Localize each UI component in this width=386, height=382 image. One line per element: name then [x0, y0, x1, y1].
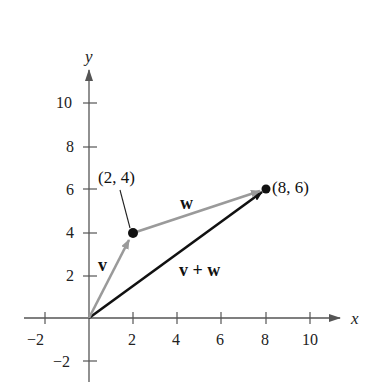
x-tick-label: 6: [216, 331, 224, 348]
y-axis-label: y: [83, 47, 93, 66]
y-tick-label: 8: [66, 138, 74, 155]
x-tick-label: 2: [128, 331, 136, 348]
y-tick-label: −2: [53, 353, 70, 370]
vector-v: [89, 240, 129, 318]
point-label-2-4: (2, 4): [98, 168, 135, 187]
vector-v-plus-w: [89, 192, 262, 318]
x-tick-label: 4: [172, 331, 180, 348]
point-label-8-6: (8, 6): [272, 178, 309, 197]
y-tick-label: 6: [66, 181, 74, 198]
x-tick-label: −2: [27, 331, 44, 348]
leader-line: [120, 190, 130, 228]
vector-w: [133, 191, 260, 233]
y-tick-label: 2: [66, 267, 74, 284]
point-2-4: [128, 228, 138, 238]
x-axis: x −2 2 4 6 8 10: [24, 309, 359, 348]
y-tick-label: 10: [56, 94, 72, 111]
vector-label-v: v: [98, 255, 107, 275]
x-tick-label: 8: [261, 331, 269, 348]
x-tick-label: 10: [302, 331, 318, 348]
y-axis: y 10 8 6 4 2 −2: [53, 47, 97, 382]
vector-label-w: w: [180, 193, 193, 213]
x-axis-label: x: [350, 309, 359, 328]
vector-label-v-plus-w: v + w: [179, 260, 220, 280]
point-8-6: [262, 185, 271, 194]
y-tick-label: 4: [66, 224, 74, 241]
vector-diagram: x −2 2 4 6 8 10 y 10 8 6 4 2 −2: [0, 0, 386, 382]
